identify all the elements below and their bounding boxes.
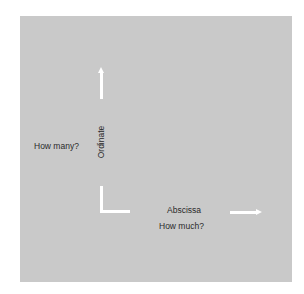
y-axis-question: How many? [34,142,79,151]
x-axis-label: Abscissa [167,206,201,215]
x-axis-question: How much? [159,222,204,231]
y-axis-label: Ordinate [97,126,106,159]
